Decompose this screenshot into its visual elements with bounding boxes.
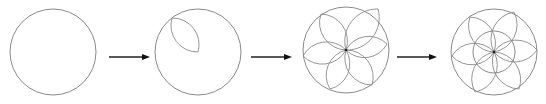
petal — [345, 50, 373, 85]
petal — [491, 12, 517, 52]
petal — [303, 42, 346, 64]
outer-circle — [10, 9, 96, 95]
step-4-figure — [451, 9, 537, 95]
arrow-2-icon — [251, 54, 292, 60]
center-point — [493, 51, 496, 54]
diagram-canvas — [0, 0, 546, 104]
petal — [494, 40, 537, 62]
petal — [472, 52, 498, 92]
petal — [320, 14, 348, 50]
construction-diagram — [0, 0, 546, 104]
petal — [326, 50, 350, 89]
petal — [346, 36, 387, 57]
step-1-figure — [10, 9, 96, 95]
step-2-figure — [155, 9, 241, 95]
arrow-1-icon — [109, 54, 150, 60]
petal — [171, 18, 199, 52]
center-point — [345, 49, 348, 52]
arrow-3-icon — [397, 54, 437, 60]
step-3-figure — [303, 7, 389, 93]
